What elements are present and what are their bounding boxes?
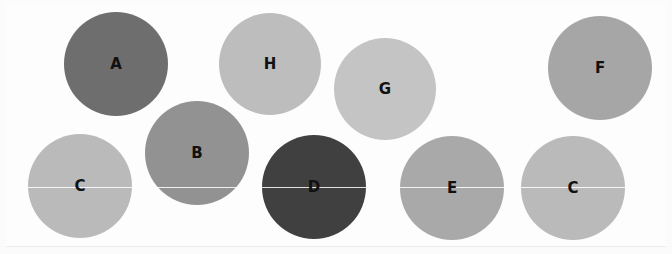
circle-label-d: D bbox=[308, 180, 320, 195]
circle-e: E bbox=[400, 136, 504, 240]
circle-label-h: H bbox=[264, 57, 277, 72]
circle-h: H bbox=[219, 13, 321, 115]
circle-c-right: C bbox=[521, 136, 625, 240]
circle-label-b: B bbox=[191, 146, 202, 161]
circle-label-f: F bbox=[595, 61, 605, 76]
circle-c-left: C bbox=[28, 134, 132, 238]
circle-label-e: E bbox=[447, 181, 457, 196]
circle-b: B bbox=[145, 101, 249, 205]
circle-label-c-right: C bbox=[567, 181, 578, 196]
diagram-canvas: A H G F C B D E C bbox=[0, 0, 672, 254]
circle-label-g: G bbox=[379, 82, 391, 97]
circle-a: A bbox=[64, 12, 168, 116]
circle-label-a: A bbox=[110, 57, 122, 72]
circle-label-c-left: C bbox=[74, 179, 85, 194]
guide-line bbox=[28, 187, 625, 188]
circle-f: F bbox=[548, 16, 652, 120]
circle-g: G bbox=[334, 38, 436, 140]
